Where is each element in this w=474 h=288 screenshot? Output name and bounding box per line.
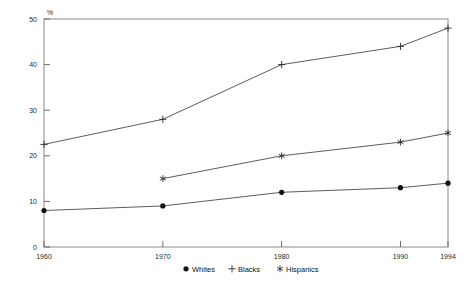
y-tick-label: 30 [29, 107, 37, 114]
series-line-whites [44, 183, 448, 210]
plot-frame [44, 19, 448, 247]
x-tick-label: 1994 [440, 253, 456, 260]
x-axis: 19601970198019901994 [36, 241, 456, 260]
x-tick-label: 1960 [36, 253, 52, 260]
data-point-whites-1960 [41, 208, 46, 213]
legend-marker-hispanics [277, 265, 283, 272]
y-tick-label: 50 [29, 16, 37, 23]
data-point-blacks-1970 [159, 116, 166, 123]
chart-legend: WhitesBlacksHispanics [183, 265, 318, 274]
legend-marker-blacks [228, 265, 235, 272]
y-tick-label: 10 [29, 198, 37, 205]
y-axis-unit-label: % [47, 9, 53, 16]
data-point-blacks-1990 [397, 43, 404, 50]
legend-marker-whites [183, 266, 188, 271]
chart-canvas: 01020304050 19601970198019901994 % White… [0, 0, 474, 288]
series-line-hispanics [163, 133, 448, 179]
data-point-whites-1990 [398, 185, 403, 190]
y-tick-label: 20 [29, 152, 37, 159]
y-tick-label: 0 [33, 244, 37, 251]
data-point-blacks-1980 [278, 61, 285, 68]
legend-label-blacks: Blacks [238, 265, 260, 274]
marker-layer [40, 25, 451, 214]
y-tick-label: 40 [29, 61, 37, 68]
data-point-blacks-1994 [444, 25, 451, 32]
data-point-whites-1994 [445, 181, 450, 186]
data-point-blacks-1960 [40, 141, 47, 148]
y-axis: 01020304050 [29, 16, 50, 251]
data-point-whites-1970 [160, 203, 165, 208]
data-point-whites-1980 [279, 190, 284, 195]
x-tick-label: 1970 [155, 253, 171, 260]
x-tick-label: 1980 [274, 253, 290, 260]
legend-label-hispanics: Hispanics [286, 265, 319, 274]
series-layer [44, 28, 448, 210]
line-chart: 01020304050 19601970198019901994 % White… [0, 0, 474, 288]
x-tick-label: 1990 [393, 253, 409, 260]
series-line-blacks [44, 28, 448, 144]
legend-label-whites: Whites [192, 265, 215, 274]
